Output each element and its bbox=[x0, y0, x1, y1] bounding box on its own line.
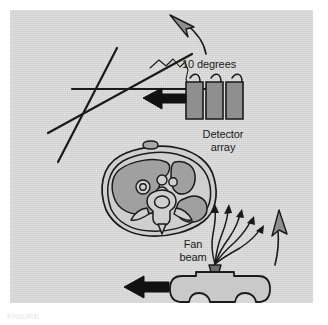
detector-wires bbox=[190, 74, 242, 82]
rotation-arrow-top bbox=[170, 15, 206, 54]
figure-root: 10 degrees Detector array Fan beam FIGUR… bbox=[0, 0, 328, 325]
illustration-panel: 10 degrees Detector array Fan beam bbox=[10, 10, 313, 303]
rotation-arrow-right bbox=[272, 210, 287, 265]
fan-beam-label: Fan beam bbox=[173, 238, 213, 263]
fan-beam-arrowheads bbox=[211, 204, 264, 234]
detector-array bbox=[186, 74, 243, 119]
fan-beam bbox=[212, 208, 260, 264]
detector-translation-arrow bbox=[143, 88, 186, 109]
diagram-svg bbox=[10, 10, 313, 303]
xray-tube-housing bbox=[170, 265, 270, 302]
abdominal-cross-section bbox=[102, 141, 216, 236]
detector-block bbox=[186, 82, 243, 119]
tube-translation-arrow bbox=[124, 276, 169, 298]
detector-array-label: Detector array bbox=[192, 128, 254, 153]
figure-caption: FIGURE bbox=[7, 312, 40, 321]
angle-label: 10 degrees bbox=[182, 58, 236, 71]
